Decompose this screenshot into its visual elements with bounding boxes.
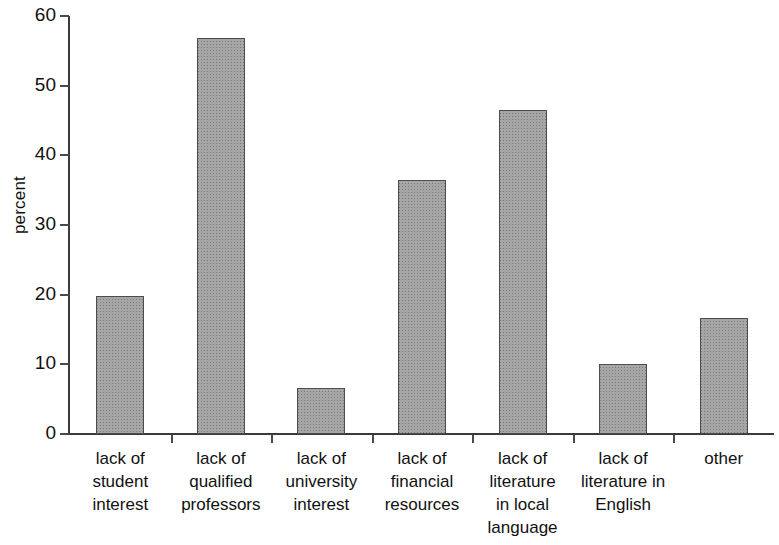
x-axis-category-label: lack of university interest [263,447,380,516]
bar [96,296,144,434]
y-tick-label: 50 [12,75,56,94]
y-tick-label-wrap: 0 [0,423,56,443]
bar [197,38,245,434]
y-tick-label-wrap: 30 [0,214,56,234]
x-tick [472,435,474,443]
y-axis-title: percent [10,155,30,255]
x-axis-category-label: lack of financial resources [364,447,481,516]
y-tick-10 [60,363,69,365]
x-tick [171,435,173,443]
bar [297,388,345,434]
x-tick [271,435,273,443]
x-axis-category-label: lack of literature in English [565,447,682,516]
y-tick-label: 20 [12,284,56,303]
y-tick-0 [60,433,69,435]
bar-chart: percent 0102030405060 lack of student in… [0,0,779,545]
y-tick-40 [60,154,69,156]
y-tick-label-wrap: 10 [0,353,56,373]
y-tick-label: 40 [12,144,56,163]
x-axis-category-label: other [665,447,779,470]
y-tick-label-wrap: 20 [0,284,56,304]
bar [398,180,446,434]
x-tick [673,435,675,443]
y-tick-label: 60 [12,5,56,24]
y-tick-30 [60,224,69,226]
y-tick-60 [60,15,69,17]
y-tick-20 [60,294,69,296]
x-axis-category-label: lack of literature in local language [464,447,581,539]
y-tick-50 [60,85,69,87]
bar [700,318,748,434]
x-axis-category-label: lack of student interest [62,447,179,516]
y-tick-label: 0 [12,423,56,442]
bar [599,364,647,434]
y-tick-label-wrap: 60 [0,5,56,25]
y-tick-label-wrap: 50 [0,75,56,95]
x-axis-category-label: lack of qualified professors [163,447,280,516]
bar [499,110,547,434]
x-tick [573,435,575,443]
y-tick-label: 10 [12,353,56,372]
x-tick [372,435,374,443]
y-tick-label: 30 [12,214,56,233]
y-tick-label-wrap: 40 [0,144,56,164]
